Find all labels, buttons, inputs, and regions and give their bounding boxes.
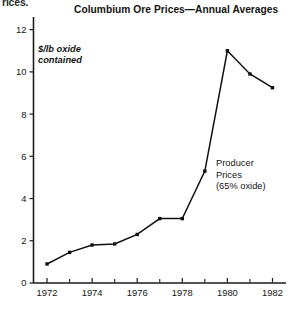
y-tick-label: 8 [21,109,26,120]
data-point [158,217,161,220]
data-point [90,243,93,246]
x-tick-group: 197219741976197819801982 [37,278,283,298]
x-tick-label: 1982 [262,287,283,298]
data-point [203,169,206,172]
data-point-group [45,49,274,266]
x-axis: 197219741976197819801982 [34,278,287,298]
y-tick-label: 2 [21,235,26,246]
data-point [271,86,274,89]
data-point [68,251,71,254]
data-point [113,242,116,245]
y-tick-label: 12 [16,24,26,35]
x-tick-label: 1976 [127,287,148,298]
data-point [136,233,139,236]
data-point [248,72,251,75]
line-chart-plot: 024681012 197219741976197819801982 [0,0,301,310]
data-point [181,217,184,220]
data-line-producer-prices [47,51,272,264]
y-tick-label: 10 [16,66,26,77]
data-point [226,49,229,52]
y-tick-label: 4 [21,193,26,204]
y-tick-group: 024681012 [16,24,34,288]
y-axis: 024681012 [16,17,34,288]
y-tick-label: 6 [21,151,26,162]
x-tick-label: 1972 [37,287,58,298]
data-series-producer-prices [45,49,274,266]
x-tick-label: 1978 [172,287,193,298]
x-tick-label: 1980 [217,287,238,298]
data-point [45,262,48,265]
y-tick-label: 0 [21,277,26,288]
x-tick-label: 1974 [82,287,103,298]
